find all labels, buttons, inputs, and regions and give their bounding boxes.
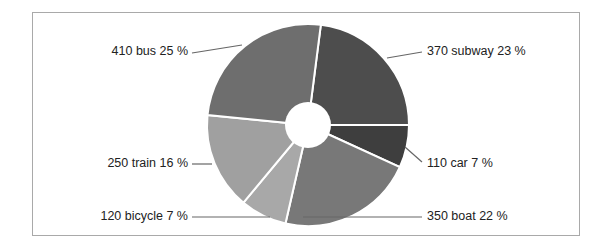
label-bicycle: 120 bicycle 7 %	[100, 209, 188, 223]
label-train: 250 train 16 %	[107, 156, 188, 170]
leader-line-subway	[387, 52, 422, 58]
donut-chart: 370 subway 23 %110 car 7 %350 boat 22 %1…	[0, 0, 609, 248]
label-subway: 370 subway 23 %	[427, 44, 526, 58]
leader-line-bus	[192, 45, 242, 53]
label-boat: 350 boat 22 %	[427, 209, 508, 223]
donut-hole	[285, 102, 331, 148]
label-car: 110 car 7 %	[427, 156, 493, 170]
label-bus: 410 bus 25 %	[112, 44, 188, 58]
leader-line-car	[405, 147, 422, 162]
